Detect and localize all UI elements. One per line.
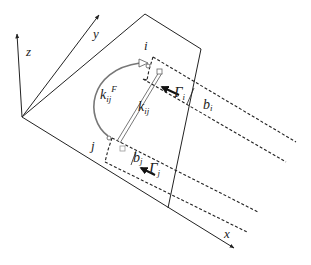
elastic-coupling-sub: ij xyxy=(144,106,150,116)
node-j xyxy=(107,136,111,140)
width-b-i-sub: i xyxy=(210,103,213,113)
wing-plane xyxy=(22,14,201,208)
lifting-line-diagram: z y x i j kijF kij Γi Γj bi bj xyxy=(0,0,311,265)
width-b-i-label: bi xyxy=(203,97,213,113)
width-b-i-symbol: b xyxy=(203,97,210,112)
y-axis-label: y xyxy=(91,26,99,41)
width-b-j-symbol: b xyxy=(133,150,140,165)
circulation-i-label: Γi xyxy=(173,84,186,102)
circulation-j-label: Γj xyxy=(148,160,161,178)
control-point-i xyxy=(157,69,162,74)
panel-j-label: j xyxy=(89,138,95,153)
width-b-j-sub: j xyxy=(139,156,143,166)
flow-coupling-sub: ij xyxy=(106,94,112,104)
x-axis-label: x xyxy=(223,226,230,241)
x-axis xyxy=(22,117,234,248)
flow-coupling-sup: F xyxy=(110,84,117,94)
node-i xyxy=(146,64,150,68)
z-axis-label: z xyxy=(25,44,31,59)
circulation-i-sub: i xyxy=(183,92,186,102)
circulation-j-sub: j xyxy=(157,168,161,178)
elastic-coupling-label: kij xyxy=(138,99,150,116)
flow-coupling-label: kijF xyxy=(100,84,117,104)
panel-i-label: i xyxy=(144,38,148,53)
panel-i xyxy=(143,57,296,162)
panel-j xyxy=(105,138,258,232)
coordinate-axes xyxy=(17,15,234,248)
z-axis xyxy=(17,34,22,117)
y-axis xyxy=(22,15,99,117)
control-point-j xyxy=(120,146,125,151)
